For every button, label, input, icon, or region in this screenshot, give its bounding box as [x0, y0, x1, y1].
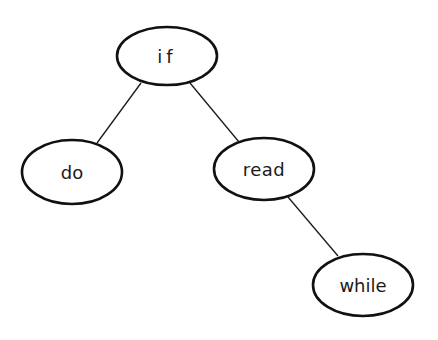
edge-read-while [288, 197, 338, 256]
node-if: if [117, 27, 217, 85]
node-while: while [313, 254, 413, 316]
node-read: read [214, 138, 314, 200]
node-read-label: read [243, 159, 286, 180]
tree-diagram: if do read while [0, 0, 438, 340]
node-while-label: while [339, 275, 386, 296]
edge-if-do [97, 83, 141, 143]
node-do: do [22, 140, 122, 204]
node-if-label: if [157, 46, 176, 67]
nodes: if do read while [22, 27, 413, 316]
node-do-label: do [61, 162, 83, 183]
edge-if-read [190, 83, 239, 142]
